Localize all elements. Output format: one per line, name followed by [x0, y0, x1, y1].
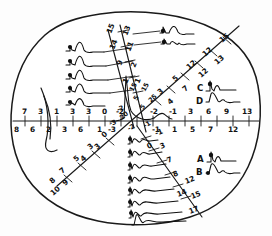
figure-canvas [0, 0, 272, 236]
figure-root: 7 3 1 3 3 0 -2 -2 -1 3 6 9 13 8 6 2 3 6 [0, 0, 272, 236]
trace-marker [206, 171, 210, 175]
